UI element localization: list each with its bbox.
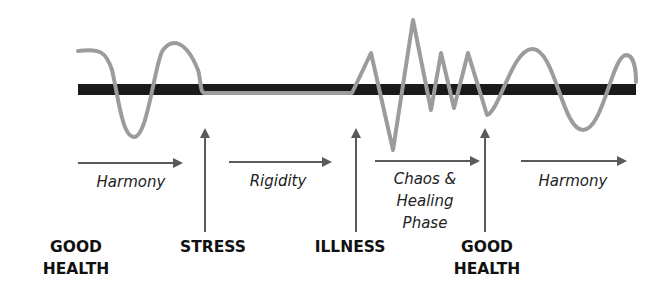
event-label-good-health-end-line-1: GOOD bbox=[461, 238, 513, 256]
phase-label-harmony-1: Harmony bbox=[97, 173, 167, 191]
phase-label-chaos-line-2: Healing bbox=[396, 192, 453, 210]
event-label-stress: STRESS bbox=[180, 238, 246, 256]
health-cycle-diagram: Harmony Rigidity Chaos & Healing Phase H… bbox=[0, 0, 672, 297]
phase-label-chaos-line-3: Phase bbox=[403, 214, 448, 232]
event-label-good-health-end-line-2: HEALTH bbox=[454, 260, 520, 278]
event-label-good-health-start-line-1: GOOD bbox=[50, 238, 102, 256]
phase-label-chaos-line-1: Chaos & bbox=[394, 170, 457, 188]
event-label-good-health-start-line-2: HEALTH bbox=[43, 260, 109, 278]
event-label-illness: ILLNESS bbox=[315, 238, 386, 256]
phase-label-rigidity: Rigidity bbox=[250, 172, 308, 190]
phase-label-harmony-2: Harmony bbox=[539, 172, 609, 190]
